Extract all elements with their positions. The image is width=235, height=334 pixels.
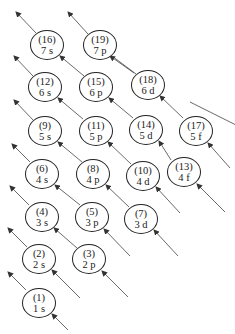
orbital-circle: (15)6 p	[79, 72, 113, 102]
orbital-label: 7 s	[31, 45, 63, 56]
orbital-label: 5 s	[29, 131, 61, 142]
orbital-circle: (19)7 p	[83, 30, 117, 60]
orbital-label: 4 p	[77, 174, 109, 185]
orbital-circle: (9)5 s	[28, 116, 62, 146]
orbital-label: 6 s	[29, 87, 61, 98]
orbital-order: (12)	[29, 76, 61, 87]
orbital-label: 3 s	[26, 217, 58, 228]
orbital-order: (8)	[77, 163, 109, 174]
orbital-label: 6 d	[132, 85, 164, 96]
orbital-label: 3 d	[125, 219, 157, 230]
orbital-order: (16)	[31, 34, 63, 45]
orbital-label: 5 p	[80, 131, 112, 142]
orbital-circle: (18)6 d	[131, 70, 165, 100]
orbital-circle: (17)5 f	[179, 116, 213, 146]
orbital-circle: (13)4 f	[167, 157, 201, 187]
orbital-order: (6)	[26, 163, 58, 174]
orbital-diagram: (1)1 s(2)2 s(3)2 p(4)3 s(5)3 p(6)4 s(7)3…	[0, 0, 235, 334]
orbital-label: 7 p	[84, 45, 116, 56]
orbital-label: 6 p	[80, 87, 112, 98]
orbital-order: (15)	[80, 76, 112, 87]
orbital-label: 3 p	[76, 217, 108, 228]
orbital-circle: (10)4 d	[126, 161, 160, 191]
orbital-label: 4 d	[127, 176, 159, 187]
arrow-1s-in	[52, 314, 68, 330]
orbital-circle: (6)4 s	[25, 159, 59, 189]
orbital-label: 4 f	[168, 172, 200, 183]
orbital-circle: (8)4 p	[76, 159, 110, 189]
orbital-label: 5 f	[180, 131, 212, 142]
orbital-circle: (14)5 d	[129, 115, 163, 145]
orbital-order: (17)	[180, 120, 212, 131]
orbital-circle: (16)7 s	[30, 30, 64, 60]
orbital-order: (13)	[168, 161, 200, 172]
orbital-circle: (4)3 s	[25, 202, 59, 232]
orbital-circle: (3)2 p	[72, 244, 106, 274]
orbital-circle: (7)3 d	[124, 204, 158, 234]
orbital-label: 5 d	[130, 130, 162, 141]
orbital-order: (1)	[23, 292, 55, 303]
orbital-order: (14)	[130, 119, 162, 130]
orbital-circle: (11)5 p	[79, 116, 113, 146]
orbital-circle: (12)6 s	[28, 72, 62, 102]
orbital-circle: (1)1 s	[22, 288, 56, 318]
orbital-order: (3)	[73, 248, 105, 259]
orbital-label: 4 s	[26, 174, 58, 185]
orbital-circle: (5)3 p	[75, 202, 109, 232]
orbital-order: (5)	[76, 206, 108, 217]
orbital-order: (9)	[29, 120, 61, 131]
orbital-order: (2)	[23, 248, 55, 259]
arrow-1s-out	[8, 272, 26, 290]
orbital-order: (4)	[26, 206, 58, 217]
orbital-label: 1 s	[23, 303, 55, 314]
orbital-order: (18)	[132, 74, 164, 85]
orbital-order: (11)	[80, 120, 112, 131]
orbital-label: 2 s	[23, 259, 55, 270]
orbital-order: (10)	[127, 165, 159, 176]
orbital-label: 2 p	[73, 259, 105, 270]
orbital-circle: (2)2 s	[22, 244, 56, 274]
orbital-order: (19)	[84, 34, 116, 45]
orbital-order: (7)	[125, 208, 157, 219]
